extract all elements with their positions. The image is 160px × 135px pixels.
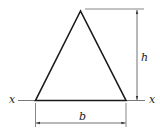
axis-label-right: x (149, 93, 156, 106)
triangle-shape (36, 11, 127, 101)
triangle-diagram: h b x x (0, 0, 160, 135)
axis-label-left: x (9, 93, 16, 106)
base-label: b (79, 110, 86, 123)
height-label: h (141, 51, 148, 64)
